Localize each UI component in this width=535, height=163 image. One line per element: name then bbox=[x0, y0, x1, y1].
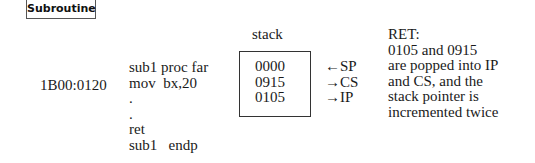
arrow-right-icon: → bbox=[325, 74, 340, 90]
register-pointer-cs: →CS bbox=[325, 75, 358, 91]
code-line: sub1 proc far bbox=[129, 60, 208, 76]
register-name: CS bbox=[340, 74, 358, 90]
ret-explanation: RET: 0105 and 0915 are popped into IP an… bbox=[388, 27, 498, 120]
note-line: and CS, and the bbox=[388, 74, 498, 90]
register-pointers: ←SP →CS →IP bbox=[325, 59, 358, 106]
stack-value: 0000 bbox=[255, 59, 285, 75]
stack-values: 0000 0915 0105 bbox=[255, 59, 285, 106]
stack-value: 0915 bbox=[255, 75, 285, 91]
code-line: sub1 endp bbox=[129, 138, 208, 154]
note-line: 0105 and 0915 bbox=[388, 43, 498, 59]
arrow-right-icon: → bbox=[325, 89, 340, 105]
memory-address: 1B00:0120 bbox=[40, 78, 107, 93]
code-line: mov bx,20 bbox=[129, 76, 208, 92]
code-line: . bbox=[129, 107, 208, 123]
note-line: stack pointer is bbox=[388, 89, 498, 105]
stack-value: 0105 bbox=[255, 90, 285, 106]
code-line: . bbox=[129, 91, 208, 107]
register-name: SP bbox=[340, 58, 357, 74]
register-pointer-ip: →IP bbox=[325, 90, 358, 106]
assembly-code: sub1 proc far mov bx,20 . . ret sub1 end… bbox=[129, 60, 208, 153]
diagram-title: Subroutine bbox=[26, 0, 96, 19]
register-pointer-sp: ←SP bbox=[325, 59, 358, 75]
note-line: RET: bbox=[388, 27, 498, 43]
register-name: IP bbox=[340, 89, 353, 105]
code-line: ret bbox=[129, 122, 208, 138]
note-line: are popped into IP bbox=[388, 58, 498, 74]
note-line: incremented twice bbox=[388, 105, 498, 121]
arrow-left-icon: ← bbox=[325, 58, 340, 74]
stack-label: stack bbox=[252, 27, 283, 42]
